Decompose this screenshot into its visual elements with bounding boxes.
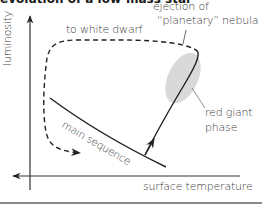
hr-diagram: evolution of a low-mass star luminosity …	[0, 0, 262, 206]
y-axis-label: luminosity	[2, 11, 14, 66]
ejection-leader	[183, 30, 186, 44]
ejection-label-line2: “planetary” nebula	[157, 15, 258, 27]
red-giant-label-line2: phase	[205, 122, 237, 134]
red-giant-leader	[192, 88, 205, 108]
to-white-dwarf-label: to white dwarf	[66, 24, 142, 36]
red-giant-arrow	[145, 139, 154, 155]
x-axis-label: surface temperature	[143, 181, 253, 193]
nebula-ellipse	[158, 47, 208, 109]
ejection-label-line1: ejection of	[153, 1, 209, 13]
red-giant-label-line1: red giant	[205, 107, 252, 119]
bottom-divider	[0, 202, 262, 204]
